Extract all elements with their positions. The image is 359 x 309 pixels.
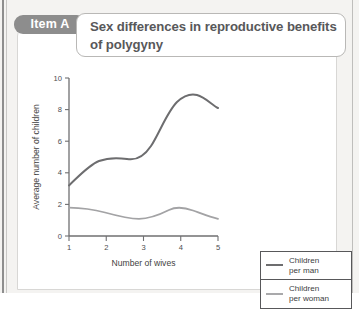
x-axis-tick-labels: 1 2 3 4 5 (67, 243, 220, 252)
page-left-edge-light (6, 0, 7, 293)
legend-label-man-line2: per man (289, 266, 319, 275)
x-tick-2: 2 (104, 243, 108, 252)
item-header: Item A Sex differences in reproductive b… (14, 13, 346, 57)
legend-label-man-line1: Children (289, 256, 319, 265)
y-tick-0: 0 (58, 232, 62, 241)
x-tick-5: 5 (216, 243, 220, 252)
y-tick-8: 8 (58, 105, 62, 114)
legend-line-swatch-woman-icon (266, 293, 283, 295)
title-box: Sex differences in reproductive benefits… (76, 13, 346, 57)
y-tick-2: 2 (58, 200, 62, 209)
legend-label-man: Children per man (289, 256, 319, 275)
x-tick-4: 4 (179, 243, 183, 252)
legend-label-woman-line2: per woman (289, 294, 329, 303)
x-axis-ticks (69, 236, 218, 241)
page-left-edge-dark (2, 0, 4, 293)
y-tick-10: 10 (54, 74, 62, 83)
chart-legend: Children per man Children per woman (260, 251, 352, 309)
series-children-per-woman (69, 208, 218, 219)
x-tick-3: 3 (141, 243, 145, 252)
x-axis-title: Number of wives (112, 258, 176, 268)
x-tick-1: 1 (67, 243, 71, 252)
y-tick-6: 6 (58, 137, 62, 146)
legend-line-swatch-man-icon (266, 264, 283, 266)
legend-item-children-per-woman: Children per woman (261, 280, 351, 308)
line-chart: 0 2 4 6 8 10 1 2 3 4 5 (17, 62, 337, 282)
legend-label-woman: Children per woman (289, 284, 329, 303)
page-right-edge (352, 0, 353, 293)
y-axis-title: Average number of children (31, 104, 41, 210)
figure-chart: 0 2 4 6 8 10 1 2 3 4 5 (17, 62, 337, 282)
series-children-per-man (69, 95, 218, 186)
y-axis-tick-labels: 0 2 4 6 8 10 (54, 74, 62, 241)
y-tick-4: 4 (58, 168, 62, 177)
page-title: Sex differences in reproductive benefits… (90, 18, 340, 53)
legend-label-woman-line1: Children (289, 284, 319, 293)
legend-item-children-per-man: Children per man (261, 252, 351, 280)
